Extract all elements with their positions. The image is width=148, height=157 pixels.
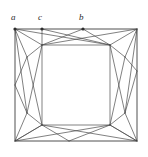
vertex-label-a: a <box>11 13 16 22</box>
diagram-edge <box>42 125 137 141</box>
edge-layer <box>15 29 137 141</box>
vertex-dot-a <box>13 27 16 30</box>
vertex-label-c: c <box>38 13 42 22</box>
vertex-dot-b <box>81 27 84 30</box>
diagram-edge <box>125 29 137 113</box>
diagram-edge <box>15 57 27 85</box>
diagram-edge <box>125 71 137 113</box>
diagram-edge <box>15 125 110 141</box>
diagram-edge <box>125 113 137 141</box>
diagram-edge <box>42 29 137 45</box>
geometric-figure: acb <box>0 0 148 157</box>
diagram-canvas <box>0 0 148 157</box>
vertex-label-b: b <box>79 13 84 22</box>
vertex-dot-c <box>40 27 43 30</box>
diagram-edge <box>15 113 27 141</box>
